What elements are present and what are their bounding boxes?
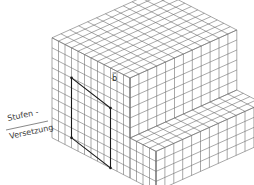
lattice-diagram: Stufen - Versetzung b xyxy=(0,0,254,185)
burgers-vector-label: b xyxy=(112,74,117,83)
lattice-grid xyxy=(52,0,254,185)
label-versetzung: Versetzung xyxy=(9,123,55,141)
lattice-svg: Stufen - Versetzung b xyxy=(0,0,254,185)
step-dislocation-label: Stufen - Versetzung xyxy=(6,108,54,141)
label-stufen: Stufen - xyxy=(7,108,40,123)
